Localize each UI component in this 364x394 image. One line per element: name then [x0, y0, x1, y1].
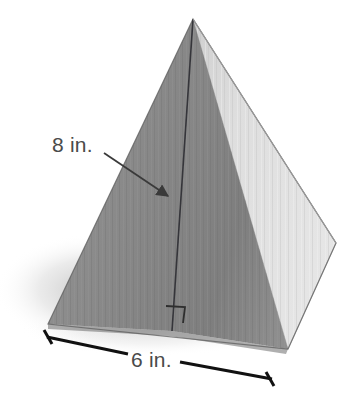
figure-canvas: 8 in. 6 in. [0, 0, 364, 394]
slant-height-label: 8 in. [52, 133, 93, 156]
pyramid-figure: 8 in. 6 in. [0, 0, 364, 394]
dimension-bar-right [180, 362, 272, 379]
base-edge-label: 6 in. [131, 348, 172, 371]
